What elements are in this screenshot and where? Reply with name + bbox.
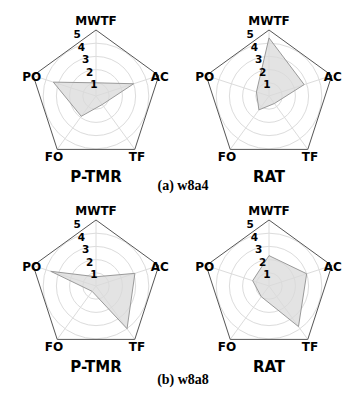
axis-label-mwtf: MWTF — [75, 204, 117, 218]
ring-tick-label-5: 5 — [247, 28, 254, 40]
axis-label-mwtf: MWTF — [248, 14, 290, 28]
ring-tick-label-4: 4 — [78, 231, 85, 243]
chart-title: P-TMR — [70, 168, 122, 186]
axis-label-tf: TF — [129, 150, 145, 164]
axis-label-ac: AC — [324, 70, 342, 84]
ring-tick-label-5: 5 — [74, 218, 81, 230]
axis-label-po: PO — [195, 260, 214, 274]
chart-title: RAT — [253, 168, 286, 186]
ring-tick-label-5: 5 — [247, 218, 254, 230]
chart-title: P-TMR — [70, 358, 122, 376]
ring-tick-label-2: 2 — [86, 256, 93, 268]
axis-label-po: PO — [195, 70, 214, 84]
axis-label-ac: AC — [324, 260, 342, 274]
ring-tick-label-5: 5 — [74, 28, 81, 40]
ring-tick-label-4: 4 — [78, 41, 85, 53]
ring-tick-label-3: 3 — [255, 243, 262, 255]
spoke-fo — [57, 286, 96, 339]
ring-tick-label-1: 1 — [263, 268, 270, 280]
ring-tick-label-2: 2 — [259, 66, 266, 78]
axis-label-fo: FO — [45, 150, 63, 164]
ring-tick-label-3: 3 — [255, 53, 262, 65]
axis-label-tf: TF — [129, 340, 145, 354]
ring-tick-label-1: 1 — [263, 78, 270, 90]
ring-tick-label-1: 1 — [90, 268, 97, 280]
spoke-tf — [269, 96, 308, 149]
axis-label-po: PO — [22, 260, 41, 274]
ring-tick-label-2: 2 — [86, 66, 93, 78]
axis-label-fo: FO — [218, 340, 236, 354]
ring-tick-label-3: 3 — [82, 243, 89, 255]
axis-label-mwtf: MWTF — [75, 14, 117, 28]
axis-label-tf: TF — [302, 150, 318, 164]
axis-label-tf: TF — [302, 340, 318, 354]
ring-tick-label-4: 4 — [251, 41, 258, 53]
axis-label-ac: AC — [151, 70, 169, 84]
ring-tick-label-2: 2 — [259, 256, 266, 268]
ring-tick-label-3: 3 — [82, 53, 89, 65]
axis-label-fo: FO — [218, 150, 236, 164]
radar-figure: 12345MWTFACTFFOPOP-TMR 12345MWTFACTFFOPO… — [0, 0, 361, 399]
radar-chart-rat-w8a4: 12345MWTFACTFFOPORAT — [195, 14, 342, 186]
axis-label-mwtf: MWTF — [248, 204, 290, 218]
ring-tick-label-1: 1 — [90, 78, 97, 90]
radar-chart-p-tmr-w8a8: 12345MWTFACTFFOPOP-TMR — [22, 204, 169, 376]
ring-tick-label-4: 4 — [251, 231, 258, 243]
radar-chart-p-tmr-w8a4: 12345MWTFACTFFOPOP-TMR — [22, 14, 169, 186]
axis-label-ac: AC — [151, 260, 169, 274]
axis-label-fo: FO — [45, 340, 63, 354]
chart-title: RAT — [253, 358, 286, 376]
caption-b: (b) w8a8 — [157, 372, 209, 388]
axis-label-po: PO — [22, 70, 41, 84]
caption-a: (a) w8a4 — [158, 178, 209, 194]
radar-chart-rat-w8a8: 12345MWTFACTFFOPORAT — [195, 204, 342, 376]
